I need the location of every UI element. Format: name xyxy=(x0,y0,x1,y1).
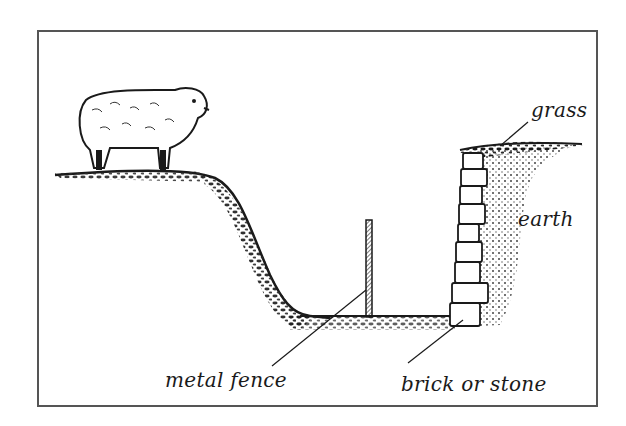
ditch-floor xyxy=(290,316,455,330)
label-metal-fence: metal fence xyxy=(165,368,287,392)
label-earth: earth xyxy=(518,207,574,231)
earth-bank xyxy=(480,145,575,326)
label-brick-or-stone: brick or stone xyxy=(401,372,547,396)
label-grass: grass xyxy=(531,98,587,122)
sheep-icon xyxy=(80,88,209,170)
metal-fence-post xyxy=(366,220,372,317)
left-bank xyxy=(55,171,330,330)
